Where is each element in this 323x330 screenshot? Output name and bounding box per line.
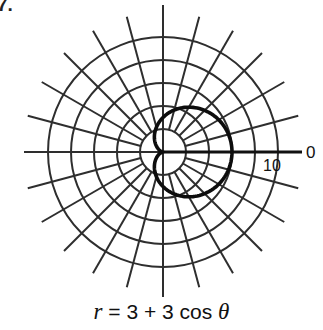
- grid-spoke: [185, 158, 298, 188]
- angle-label-zero: 0: [306, 143, 315, 162]
- grid-spoke: [185, 116, 298, 146]
- equation-rhs: = 3 + 3 cos: [103, 300, 219, 323]
- equation-caption: r = 3 + 3 cos θ: [0, 299, 323, 325]
- polar-plot: 0 10: [0, 0, 323, 300]
- equation-lhs: r: [94, 299, 103, 324]
- radius-label-ten: 10: [263, 157, 281, 174]
- equation-theta: θ: [218, 299, 229, 324]
- grid-spoke: [127, 17, 157, 130]
- grid-spoke: [28, 116, 141, 146]
- grid-spoke: [127, 174, 157, 287]
- grid-spoke: [169, 174, 199, 287]
- grid-spoke: [28, 158, 141, 188]
- grid-spoke: [169, 17, 199, 130]
